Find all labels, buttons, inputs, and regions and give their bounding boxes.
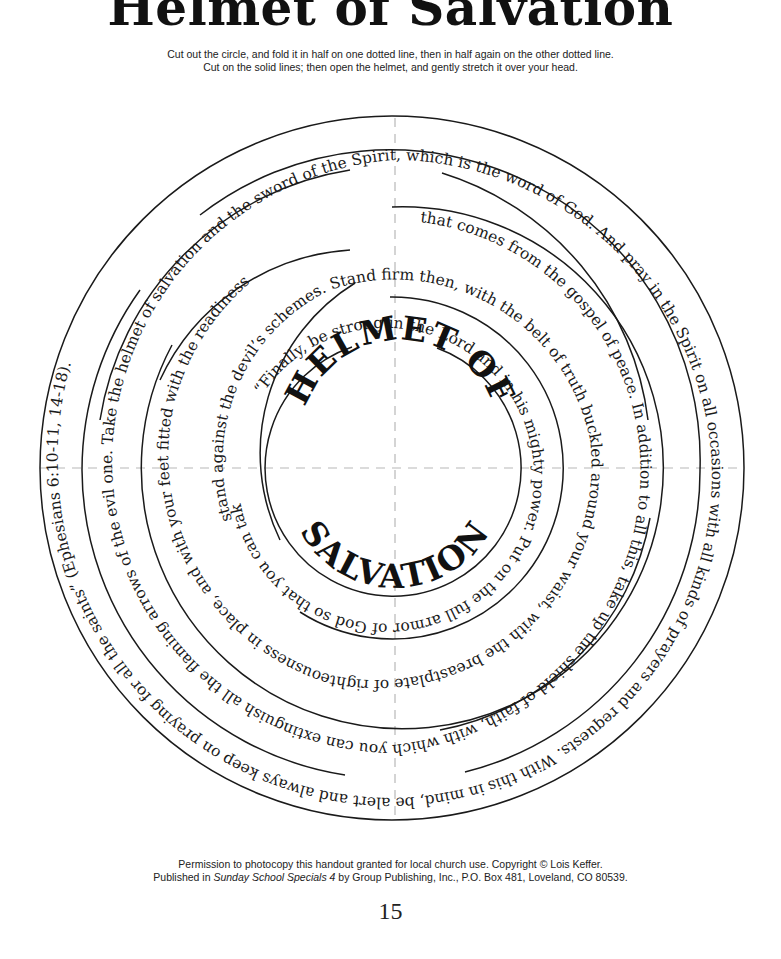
footer-book-title: Sunday School Specials 4: [213, 871, 335, 883]
footer-suffix: by Group Publishing, Inc., P.O. Box 481,…: [335, 871, 627, 883]
footer-prefix: Published in: [153, 871, 213, 883]
copyright-footer: Permission to photocopy this handout gra…: [0, 858, 781, 884]
helmet-cutout-circle: “Finally, be strong in the Lord and in h…: [0, 0, 781, 959]
footer-line-2: Published in Sunday School Specials 4 by…: [0, 871, 781, 884]
footer-line-1: Permission to photocopy this handout gra…: [0, 858, 781, 871]
verse-line-3: that comes from the gospel of peace. In …: [44, 146, 726, 812]
page-number: 15: [0, 898, 781, 925]
